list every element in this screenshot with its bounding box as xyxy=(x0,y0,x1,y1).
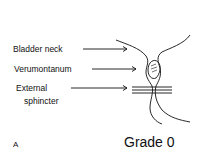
grade-title: Grade 0 xyxy=(124,134,175,150)
panel-letter: A xyxy=(13,140,18,150)
label-bladder-neck: Bladder neck xyxy=(13,44,63,54)
label-verumontanum: Verumontanum xyxy=(14,64,72,74)
label-external: External xyxy=(16,83,47,93)
label-sphincter: sphincter xyxy=(24,96,59,106)
